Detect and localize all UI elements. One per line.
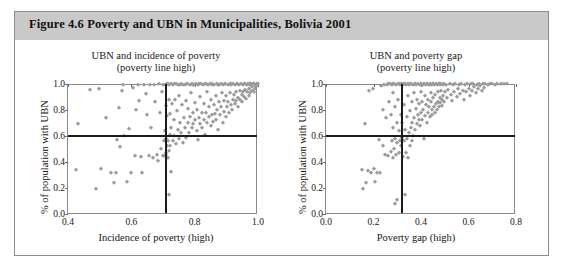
y-axis-tick-label: 0.4 bbox=[311, 157, 323, 167]
x-axis-tick-label: 0.6 bbox=[463, 217, 475, 227]
x-axis-tick-mark bbox=[326, 84, 327, 87]
scatter-point bbox=[168, 170, 173, 175]
scatter-point bbox=[373, 180, 378, 185]
scatter-point bbox=[197, 95, 202, 100]
scatter-point bbox=[446, 87, 451, 92]
scatter-point bbox=[216, 128, 221, 133]
scatter-point bbox=[362, 122, 367, 127]
scatter-point bbox=[378, 170, 383, 175]
x-axis-tick-mark bbox=[68, 84, 69, 87]
chart-right-ylabel: % of population with UBN bbox=[297, 100, 308, 214]
scatter-point bbox=[384, 116, 389, 121]
y-axis-tick-label: 0.2 bbox=[53, 183, 65, 193]
x-axis-tick-label: 0.8 bbox=[510, 217, 522, 227]
scatter-point bbox=[136, 82, 141, 87]
scatter-point bbox=[194, 128, 199, 133]
chart-left-title: UBN and incidence of poverty (poverty li… bbox=[25, 50, 287, 74]
scatter-point bbox=[168, 111, 173, 116]
scatter-point bbox=[149, 125, 154, 130]
scatter-point bbox=[189, 126, 194, 131]
chart-right-title-line1: UBN and poverty gap bbox=[370, 50, 462, 61]
y-axis-tick-mark bbox=[65, 188, 68, 189]
x-axis-tick-mark bbox=[516, 84, 517, 87]
scatter-point bbox=[97, 86, 102, 91]
scatter-point bbox=[73, 167, 78, 172]
scatter-point bbox=[467, 93, 472, 98]
y-axis-tick-label: 0.6 bbox=[53, 131, 65, 141]
scatter-point bbox=[204, 90, 209, 95]
figure-title: Figure 4.6 Poverty and UBN in Municipali… bbox=[29, 17, 351, 32]
scatter-point bbox=[440, 104, 445, 109]
scatter-point bbox=[120, 88, 125, 93]
scatter-point bbox=[131, 86, 136, 91]
y-axis-tick-label: 0.4 bbox=[53, 157, 65, 167]
scatter-point bbox=[213, 93, 218, 98]
scatter-point bbox=[114, 171, 119, 176]
chart-right-xlabel: Poverty gap (high) bbox=[287, 232, 545, 243]
y-axis-tick-label: 0.8 bbox=[53, 105, 65, 115]
scatter-point bbox=[103, 116, 108, 121]
chart-left-title-line1: UBN and incidence of poverty bbox=[92, 50, 221, 61]
scatter-point bbox=[182, 125, 187, 130]
scatter-point bbox=[211, 103, 216, 108]
scatter-point bbox=[129, 171, 134, 176]
scatter-point bbox=[140, 171, 145, 176]
y-axis-tick-mark bbox=[323, 110, 326, 111]
x-axis-tick-label: 0.4 bbox=[62, 217, 74, 227]
x-axis-tick-label: 0.8 bbox=[189, 217, 201, 227]
scatter-point bbox=[186, 107, 191, 112]
scatter-point bbox=[380, 108, 385, 113]
scatter-point bbox=[214, 117, 219, 122]
scatter-point bbox=[413, 106, 418, 111]
scatter-point bbox=[126, 127, 131, 132]
horizontal-reference-line bbox=[326, 135, 515, 137]
scatter-point bbox=[88, 88, 93, 93]
scatter-point bbox=[76, 122, 81, 127]
scatter-point bbox=[218, 113, 223, 118]
scatter-point bbox=[413, 128, 418, 133]
y-axis-tick-label: 0.2 bbox=[311, 183, 323, 193]
scatter-point bbox=[240, 100, 245, 105]
vertical-reference-line bbox=[165, 84, 167, 213]
scatter-point bbox=[132, 154, 137, 159]
scatter-point bbox=[381, 144, 386, 149]
plot-frame-right bbox=[256, 84, 257, 213]
scatter-point bbox=[177, 93, 182, 98]
scatter-point bbox=[387, 99, 392, 104]
vertical-reference-line bbox=[401, 84, 403, 213]
scatter-point bbox=[157, 111, 162, 116]
y-axis-tick-label: 1.0 bbox=[311, 79, 323, 89]
scatter-point bbox=[190, 110, 195, 115]
scatter-point bbox=[391, 91, 396, 96]
scatter-point bbox=[360, 186, 365, 191]
scatter-point bbox=[143, 91, 148, 96]
x-axis-tick-label: 0.2 bbox=[368, 217, 380, 227]
scatter-point bbox=[421, 136, 426, 141]
scatter-point bbox=[174, 141, 179, 146]
scatter-point bbox=[424, 121, 429, 126]
scatter-point bbox=[115, 137, 120, 142]
chart-panel-left: UBN and incidence of poverty (poverty li… bbox=[25, 46, 287, 254]
scatter-point bbox=[176, 137, 181, 142]
scatter-point bbox=[171, 118, 176, 123]
scatter-point bbox=[154, 152, 159, 157]
x-axis-tick-label: 0.4 bbox=[415, 217, 427, 227]
scatter-point bbox=[449, 98, 454, 103]
y-axis-tick-mark bbox=[323, 188, 326, 189]
scatter-point bbox=[145, 113, 150, 118]
scatter-point bbox=[188, 91, 193, 96]
scatter-point bbox=[159, 90, 164, 95]
scatter-point bbox=[418, 123, 423, 128]
scatter-point bbox=[175, 108, 180, 113]
scatter-point bbox=[406, 156, 411, 161]
scatter-point bbox=[181, 115, 186, 120]
y-axis-tick-mark bbox=[323, 214, 326, 215]
scatter-point bbox=[156, 159, 161, 164]
scatter-point bbox=[376, 137, 381, 142]
scatter-point bbox=[116, 105, 121, 110]
scatter-point bbox=[185, 121, 190, 126]
plot-frame-right bbox=[514, 84, 515, 213]
scatter-point bbox=[236, 105, 241, 110]
chart-panel-right: UBN and poverty gap (poverty line high) … bbox=[287, 46, 545, 254]
scatter-point bbox=[191, 122, 196, 127]
